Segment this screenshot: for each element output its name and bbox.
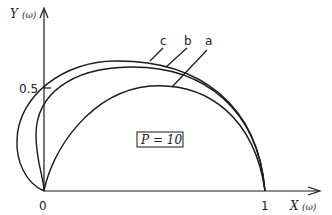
y-axis-var: (ω) [22,10,37,20]
curve-label-b: b [184,34,192,48]
leader-b [166,48,187,67]
leader-c [150,48,163,61]
x-tick-label: 1 [261,199,269,213]
curve-label-a: a [205,34,212,48]
origin-label: 0 [39,199,47,213]
y-tick-label: 0.5 [19,82,38,96]
y-axis-title: Y [10,7,19,21]
x-axis-var: (ω) [302,202,317,212]
curve-c [17,61,265,191]
nyquist-diagram: c b a P = 10 0.5 0 1 Y (ω) X (ω) [0,0,332,215]
parameter-label: P = 10 [140,133,182,147]
curve-label-c: c [160,34,167,48]
x-axis-title: X [289,199,299,213]
